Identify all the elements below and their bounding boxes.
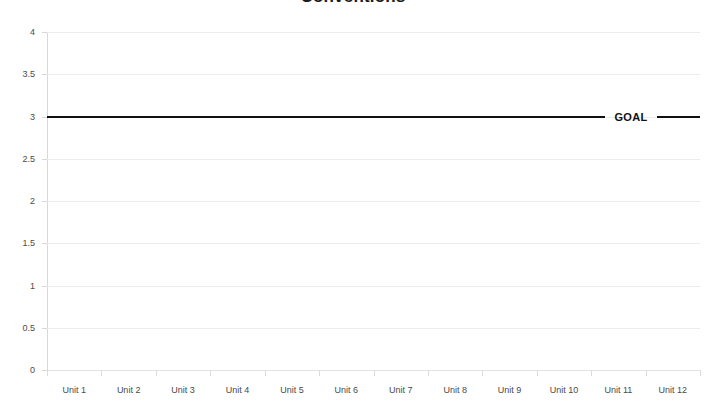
x-axis-tick [646,370,647,376]
gridline [47,159,700,160]
x-axis-tick-label: Unit 4 [210,383,264,399]
gridline [47,328,700,329]
gridline [47,243,700,244]
x-axis-tick-label: Unit 9 [482,383,536,399]
y-axis-tick-label: 0 [30,365,35,375]
x-axis-tick-label: Unit 6 [319,383,373,399]
x-axis-tick-label: Unit 3 [156,383,210,399]
goal-line-label: GOAL [611,111,651,123]
x-axis-tick-label: Unit 8 [428,383,482,399]
gridline [47,201,700,202]
goal-line-segment-right [657,116,700,118]
x-axis-tick-label: Unit 2 [101,383,155,399]
y-axis-tick-label: 4 [30,27,35,37]
gridline [47,286,700,287]
y-axis-tick-label: 3.5 [22,69,35,79]
goal-line-segment-left [47,116,605,118]
x-axis-tick [591,370,592,376]
x-axis-tick-label: Unit 11 [591,383,645,399]
gridline [47,74,700,75]
x-axis-tick [374,370,375,376]
y-axis-tick-label: 3 [30,112,35,122]
x-axis-tick [700,370,701,376]
y-axis-tick-label: 2 [30,196,35,206]
chart-container: Conventions 00.511.522.533.54 GOAL Unit … [0,0,706,420]
x-axis-tick [210,370,211,376]
x-axis-tick [156,370,157,376]
y-axis-tick-label: 1 [30,281,35,291]
x-axis-tick [428,370,429,376]
x-axis-tick-label: Unit 10 [537,383,591,399]
plot-area: GOAL [47,32,700,370]
x-axis-tick [265,370,266,376]
x-axis-tick-label: Unit 12 [646,383,700,399]
x-axis-tick-label: Unit 7 [374,383,428,399]
chart-title: Conventions [0,0,706,7]
x-axis-tick [101,370,102,376]
x-axis-tick-label: Unit 1 [47,383,101,399]
gridline [47,32,700,33]
y-axis-labels: 00.511.522.533.54 [0,32,41,370]
x-axis-tick-label: Unit 5 [265,383,319,399]
x-axis-tick [482,370,483,376]
y-axis-tick-label: 0.5 [22,323,35,333]
x-axis-tick [319,370,320,376]
y-axis-tick-label: 1.5 [22,238,35,248]
x-axis-labels: Unit 1Unit 2Unit 3Unit 4Unit 5Unit 6Unit… [47,383,700,399]
x-axis-tick [537,370,538,376]
x-axis-tick [47,370,48,376]
y-axis-tick-label: 2.5 [22,154,35,164]
